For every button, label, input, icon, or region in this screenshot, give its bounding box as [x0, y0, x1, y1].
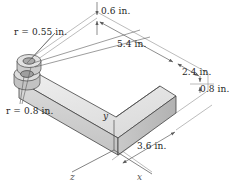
leader-hole-radius-2: [27, 33, 55, 63]
axis-label-y: y: [103, 111, 108, 121]
dimension-label-0-6: 0.6 in.: [101, 6, 130, 16]
axis-x-line: [114, 150, 152, 174]
dimension-label-2-4: 2.4 in.: [182, 67, 211, 77]
radius-label-hole: r = 0.55 in.: [14, 27, 67, 37]
hole-opening-lower: [21, 71, 34, 78]
axis-z-line: [72, 150, 114, 172]
engineering-figure: 0.6 in. 5.4 in. 2.4 in. 0.8 in. 3.6 in. …: [0, 0, 229, 189]
dimension-label-5-4: 5.4 in.: [117, 39, 146, 49]
radius-label-boss: r = 0.8 in.: [6, 106, 53, 116]
axis-label-x: x: [137, 172, 142, 182]
dimension-label-0-8: 0.8 in.: [200, 84, 229, 94]
dimension-label-3-6: 3.6 in.: [137, 141, 166, 151]
axis-label-z: z: [70, 172, 75, 182]
boss-and-hole-assembly: [14, 55, 41, 91]
